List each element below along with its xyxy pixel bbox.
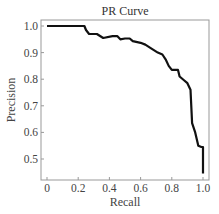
x-tick-label: 0	[44, 182, 50, 194]
y-tick-label: 1.0	[24, 20, 39, 32]
pr-curve-line	[47, 26, 203, 174]
x-tick-label: 0.8	[165, 182, 180, 194]
chart-title: PR Curve	[101, 4, 148, 18]
y-tick-label: 0.8	[24, 73, 39, 85]
x-tick-label: 0.2	[71, 182, 86, 194]
y-tick-label: 0.6	[24, 126, 39, 138]
y-tick-label: 0.5	[24, 153, 39, 165]
y-axis-label: Precision	[4, 78, 18, 123]
y-tick-label: 0.9	[24, 47, 39, 59]
y-tick-label: 0.7	[24, 100, 39, 112]
x-tick-label: 0.6	[133, 182, 148, 194]
x-axis-label: Recall	[110, 195, 141, 209]
x-tick-label: 1.0	[196, 182, 211, 194]
pr-curve-chart: PR Curve 0.50.60.70.80.91.0 00.20.40.60.…	[0, 0, 219, 214]
plot-area-frame	[41, 20, 209, 180]
x-tick-label: 0.4	[102, 182, 117, 194]
